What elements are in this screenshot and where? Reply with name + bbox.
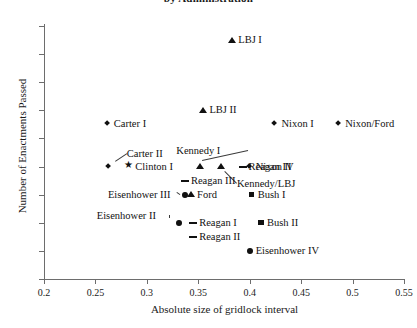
scatter-chart-figure: by Administration 24681012141618200.20.2…	[0, 0, 417, 328]
y-axis-tick	[39, 195, 44, 196]
y-axis-line	[44, 24, 45, 280]
x-axis-tick-label: 0.45	[278, 287, 324, 298]
x-axis-tick	[404, 279, 405, 284]
x-axis-tick-label: 0.35	[175, 287, 221, 298]
data-point-label: Eisenhower III	[108, 189, 171, 200]
x-axis-tick	[147, 279, 148, 284]
x-axis-tick	[44, 279, 45, 284]
x-axis-tick	[95, 279, 96, 284]
x-axis-tick	[250, 279, 251, 284]
y-axis-tick	[39, 26, 44, 27]
data-point-label: Carter I	[114, 118, 146, 129]
data-point-label: Ford	[197, 189, 217, 200]
x-axis-tick-label: 0.3	[124, 287, 170, 298]
data-point-label: Nixon I	[281, 118, 313, 129]
x-axis-tick	[353, 279, 354, 284]
y-axis-tick	[39, 223, 44, 224]
data-point-label: Eisenhower IV	[256, 245, 319, 256]
label-leader-line	[169, 215, 170, 218]
y-axis-tick	[39, 82, 44, 83]
data-point-label: Bush II	[267, 217, 298, 228]
data-point-label: Eisenhower II	[97, 210, 156, 221]
data-point-label: LBJ I	[238, 34, 262, 45]
data-point-label: Bush I	[258, 189, 286, 200]
y-axis-tick	[39, 54, 44, 55]
x-axis-tick-label: 0.55	[381, 287, 417, 298]
x-axis-line	[44, 279, 405, 280]
x-axis-tick	[301, 279, 302, 284]
data-point-label: Clinton I	[135, 161, 173, 172]
y-axis-tick	[39, 167, 44, 168]
y-axis-tick	[39, 138, 44, 139]
data-point-label: Kennedy/LBJ	[237, 178, 295, 189]
chart-title: by Administration	[0, 0, 417, 6]
data-point-label: Nixon/Ford	[345, 118, 394, 129]
x-axis-tick-label: 0.2	[21, 287, 67, 298]
x-axis-tick-label: 0.5	[330, 287, 376, 298]
x-axis-tick	[198, 279, 199, 284]
data-point-label: Nixon II	[256, 161, 292, 172]
data-point-label: Kennedy I	[176, 145, 220, 156]
y-axis-label: Number of Enactments Passed	[16, 36, 28, 256]
x-axis-label: Absolute size of gridlock interval	[44, 303, 405, 315]
data-point-label: Carter II	[127, 148, 163, 159]
y-axis-tick	[39, 110, 44, 111]
x-axis-tick-label: 0.25	[72, 287, 118, 298]
x-axis-tick-label: 0.4	[227, 287, 273, 298]
label-leader-line	[176, 192, 180, 195]
data-point-label: Reagan III	[191, 175, 236, 186]
y-axis-tick	[39, 251, 44, 252]
data-point-label: Reagan II	[199, 231, 240, 242]
data-point-label: Reagan I	[199, 217, 237, 228]
data-point-label: LBJ II	[209, 104, 236, 115]
